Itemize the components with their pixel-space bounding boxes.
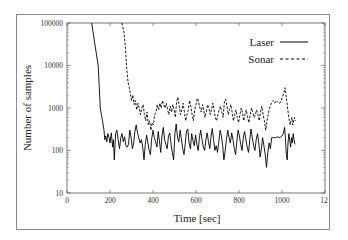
x-tick-label: 600 — [190, 196, 202, 205]
plot-border — [67, 23, 325, 193]
legend: Laser Sonar — [248, 36, 308, 65]
x-tick-label: 400 — [147, 196, 159, 205]
y-tick-label: 10 — [56, 189, 64, 198]
x-axis-title: Time [sec] — [174, 212, 221, 224]
x-tick-label: 0 — [65, 196, 69, 205]
legend-label-sonar: Sonar — [248, 53, 274, 65]
line-chart: 020040060080010001210100100010000100000 … — [0, 0, 348, 240]
x-tick-label: 12 — [320, 196, 328, 205]
x-tick-label: 200 — [104, 196, 116, 205]
x-tick-label: 800 — [233, 196, 245, 205]
x-tick-label: 1000 — [275, 196, 290, 205]
plot-area — [67, 23, 325, 193]
legend-label-laser: Laser — [250, 36, 275, 48]
y-tick-label: 100000 — [41, 19, 64, 28]
y-tick-label: 1000 — [48, 104, 63, 113]
y-axis-title: Number of samples — [21, 65, 33, 151]
y-tick-label: 10000 — [44, 61, 63, 70]
y-tick-label: 100 — [52, 146, 64, 155]
